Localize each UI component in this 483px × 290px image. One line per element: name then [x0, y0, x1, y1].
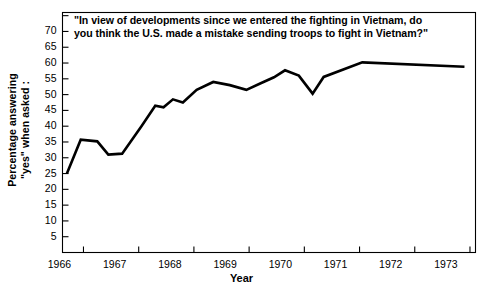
- x-tick-label-1971: 1971: [313, 258, 359, 270]
- chart-title: "In view of developments since we entere…: [74, 14, 472, 41]
- x-axis-title: Year: [0, 272, 483, 284]
- y-tick-label-45: 45: [35, 104, 57, 115]
- y-tick-label-40: 40: [35, 120, 57, 131]
- y-tick-label-25: 25: [35, 168, 57, 179]
- x-tick-label-1972: 1972: [368, 258, 414, 270]
- chart-title-line2: you think the U.S. made a mistake sendin…: [74, 27, 472, 40]
- y-tick-label-60: 60: [35, 57, 57, 68]
- chart-title-line1: "In view of developments since we entere…: [74, 14, 472, 27]
- y-tick-label-15: 15: [35, 199, 57, 210]
- x-tick-label-1973: 1973: [423, 258, 469, 270]
- x-tick-label-1966: 1966: [36, 258, 82, 270]
- plot-area: [0, 0, 483, 290]
- y-tick-label-5: 5: [35, 231, 57, 242]
- y-tick-label-65: 65: [35, 41, 57, 52]
- x-tick-label-1967: 1967: [92, 258, 138, 270]
- y-tick-label-10: 10: [35, 215, 57, 226]
- y-tick-label-20: 20: [35, 183, 57, 194]
- x-tick-label-1968: 1968: [147, 258, 193, 270]
- y-tick-label-50: 50: [35, 89, 57, 100]
- plot-border: [63, 13, 476, 253]
- y-tick-label-55: 55: [35, 73, 57, 84]
- x-tick-label-1969: 1969: [202, 258, 248, 270]
- x-tick-label-1970: 1970: [257, 258, 303, 270]
- chart-container: Percentage answering "yes" when asked : …: [0, 0, 483, 290]
- y-tick-label-35: 35: [35, 136, 57, 147]
- y-tick-label-70: 70: [35, 25, 57, 36]
- y-tick-label-30: 30: [35, 152, 57, 163]
- data-line-percentage-yes: [67, 62, 465, 173]
